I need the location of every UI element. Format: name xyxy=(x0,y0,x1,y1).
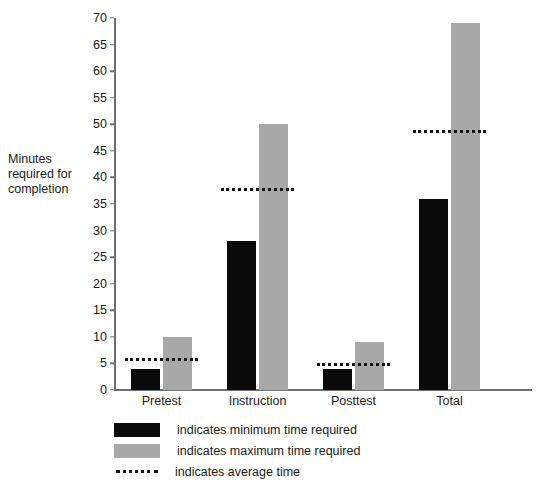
x-axis-label-instruction: Instruction xyxy=(229,394,287,408)
y-tick-label: 30 xyxy=(93,224,107,238)
y-tick-label: 45 xyxy=(93,144,107,158)
x-axis-label-pretest: Pretest xyxy=(142,394,182,408)
legend-item-avg: indicates average time xyxy=(114,461,454,482)
y-tick-mark xyxy=(110,283,114,284)
legend-label: indicates maximum time required xyxy=(177,444,360,458)
bar-minimum-posttest xyxy=(323,369,352,390)
y-tick-label: 50 xyxy=(93,117,107,131)
y-tick-mark xyxy=(110,203,114,204)
legend-item-min: indicates minimum time required xyxy=(114,419,454,440)
y-tick-mark xyxy=(110,256,114,257)
y-tick-label: 20 xyxy=(93,277,107,291)
y-tick-mark xyxy=(110,177,114,178)
y-tick-label: 25 xyxy=(93,250,107,264)
average-line-instruction xyxy=(221,188,294,191)
average-line-posttest xyxy=(317,363,390,366)
y-tick-mark xyxy=(110,389,114,390)
y-tick-label: 15 xyxy=(93,303,107,317)
average-line-total xyxy=(413,130,486,133)
y-tick-label: 70 xyxy=(93,11,107,25)
y-tick-label: 0 xyxy=(100,383,107,397)
legend-label: indicates average time xyxy=(175,465,300,479)
y-tick-mark xyxy=(110,124,114,125)
bar-maximum-pretest xyxy=(163,337,192,390)
bar-minimum-instruction xyxy=(227,241,256,390)
y-tick-label: 65 xyxy=(93,38,107,52)
bar-minimum-pretest xyxy=(131,369,160,390)
y-tick-label: 10 xyxy=(93,330,107,344)
bar-minimum-total xyxy=(419,199,448,390)
y-tick-mark xyxy=(110,336,114,337)
legend-label: indicates minimum time required xyxy=(177,423,357,437)
bar-maximum-total xyxy=(451,23,480,390)
y-tick-label: 35 xyxy=(93,197,107,211)
x-axis-label-posttest: Posttest xyxy=(331,394,376,408)
y-tick-mark xyxy=(110,363,114,364)
bar-chart: Minutes required for completion 05101520… xyxy=(0,0,538,487)
y-tick-mark xyxy=(110,230,114,231)
y-tick-mark xyxy=(110,310,114,311)
legend-swatch-min-icon xyxy=(114,423,160,437)
y-tick-mark xyxy=(110,97,114,98)
chart-legend: indicates minimum time requiredindicates… xyxy=(114,419,454,482)
y-tick-mark xyxy=(110,44,114,45)
y-tick-label: 40 xyxy=(93,170,107,184)
average-line-pretest xyxy=(125,358,198,361)
y-tick-label: 55 xyxy=(93,91,107,105)
legend-item-max: indicates maximum time required xyxy=(114,440,454,461)
y-tick-label: 60 xyxy=(93,64,107,78)
x-axis-label-total: Total xyxy=(436,394,462,408)
y-tick-label: 5 xyxy=(100,356,107,370)
plot-area: 0510152025303540455055606570 PretestInst… xyxy=(114,18,532,390)
y-tick-mark xyxy=(110,70,114,71)
y-tick-mark xyxy=(110,150,114,151)
y-tick-mark xyxy=(110,17,114,18)
bar-maximum-instruction xyxy=(259,124,288,390)
y-axis-line xyxy=(114,18,116,390)
legend-swatch-avg-icon xyxy=(116,470,158,473)
legend-swatch-max-icon xyxy=(114,444,160,458)
y-axis-title: Minutes required for completion xyxy=(8,152,100,197)
